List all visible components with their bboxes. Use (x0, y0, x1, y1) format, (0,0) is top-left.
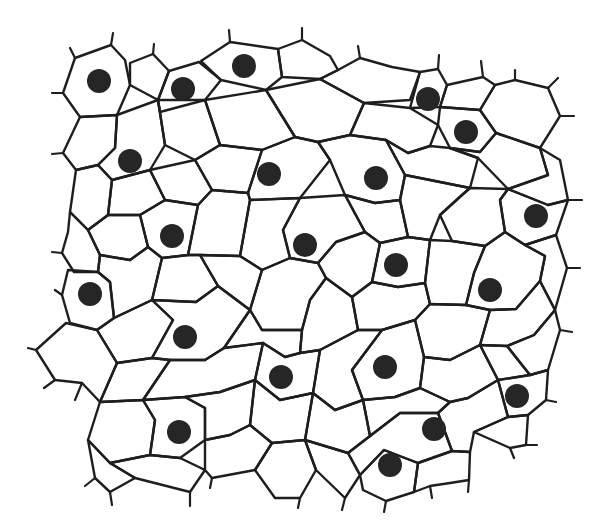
cell-outline (480, 345, 530, 380)
nucleus (454, 120, 478, 144)
cell-outline (70, 165, 112, 230)
cell-outline (152, 286, 250, 360)
cell-outline (474, 415, 528, 448)
cell-outline (525, 235, 567, 310)
nucleus (173, 325, 197, 349)
cell-outline (425, 240, 485, 305)
nucleus (232, 54, 256, 78)
nucleus (293, 233, 317, 257)
cell-outline (88, 400, 155, 463)
nucleus (364, 166, 388, 190)
nucleus (118, 149, 142, 173)
nucleus (422, 417, 446, 441)
cell-outline (440, 77, 495, 110)
cell-outline (63, 115, 117, 170)
nucleus (373, 355, 397, 379)
nucleus (171, 77, 195, 101)
cell-outline (415, 304, 490, 360)
epithelial-cell-diagram (0, 0, 604, 532)
cell-outline (62, 212, 100, 272)
nucleus (524, 204, 548, 228)
cell-outline (266, 79, 364, 142)
cell-outline (130, 54, 169, 100)
cell-outline (300, 278, 358, 353)
cell-outline (100, 358, 170, 402)
nucleus (87, 69, 111, 93)
nucleus (167, 420, 191, 444)
cell-outline (110, 455, 205, 492)
cell-outline (278, 40, 338, 79)
nucleus (78, 282, 102, 306)
nucleus (269, 365, 293, 389)
cell-outline (98, 247, 162, 318)
nucleus (160, 224, 184, 248)
cell-outline (205, 425, 272, 478)
cell-outline (318, 135, 405, 203)
nucleus (257, 162, 281, 186)
cell-outline (224, 310, 302, 357)
cell-outline (255, 440, 316, 498)
nucleus (416, 87, 440, 111)
nucleus (378, 453, 402, 477)
cell-outline (143, 343, 263, 400)
cell-walls (36, 40, 568, 501)
cell-outline (195, 145, 262, 193)
cell-outline (185, 380, 255, 440)
nucleus (384, 253, 408, 277)
cell-outline (508, 148, 568, 205)
nucleus (505, 384, 529, 408)
cell-outline (108, 170, 165, 215)
cell-outline (188, 190, 250, 256)
cell-outline (414, 451, 470, 492)
cell-outline (400, 175, 470, 240)
cell-outline (152, 255, 218, 302)
cell-outline (88, 440, 135, 492)
cell-outline (466, 232, 545, 310)
cell-outline (318, 232, 380, 297)
cell-outline (352, 282, 430, 330)
nucleus (478, 278, 502, 302)
cell-outline (507, 310, 560, 375)
